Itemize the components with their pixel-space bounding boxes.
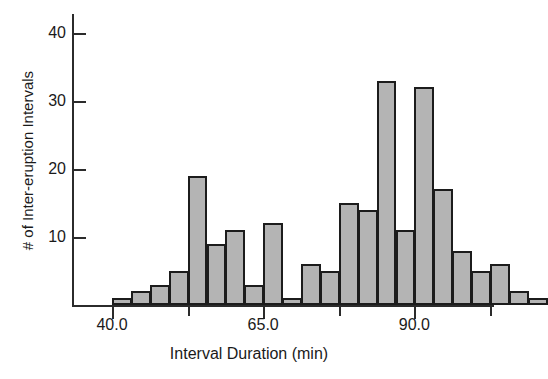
histogram-bar [150,285,170,305]
y-tick [74,169,86,171]
x-tick-label: 65.0 [233,316,293,334]
x-minor-tick [339,307,341,316]
y-tick-label: 10 [28,228,66,246]
histogram-bar [509,291,529,305]
y-axis-spine [72,14,74,306]
histogram-bar [282,298,302,305]
histogram-bar [188,176,208,305]
histogram-bar [131,291,151,305]
histogram-bar [112,298,132,305]
histogram-bar [452,251,472,305]
histogram-bar [320,271,340,305]
x-minor-tick [490,307,492,316]
x-tick-label: 90.0 [384,316,444,334]
histogram-bar [433,189,453,305]
histogram-bar [207,244,227,305]
histogram-bar [396,230,416,305]
histogram-bar [528,298,548,305]
histogram-bar [414,87,434,305]
y-tick-label: 20 [28,160,66,178]
histogram-bar [225,230,245,305]
x-tick-label: 40.0 [82,316,142,334]
x-axis-spine [72,305,494,307]
histogram-bar [377,81,397,305]
histogram-bar [339,203,359,305]
y-tick [74,101,86,103]
histogram-bar [358,210,378,305]
histogram-bar [169,271,189,305]
histogram-bar [263,223,283,305]
histogram-bar [244,285,264,305]
y-tick [74,237,86,239]
y-tick [74,33,86,35]
histogram-bar [301,264,321,305]
y-tick-label: 40 [28,24,66,42]
histogram-bar [471,271,491,305]
histogram-bar [490,264,510,305]
y-tick-label: 30 [28,92,66,110]
x-minor-tick [188,307,190,316]
